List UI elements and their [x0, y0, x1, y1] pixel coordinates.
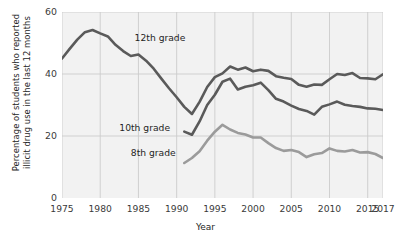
series-line-8th-grade — [184, 125, 383, 163]
y-axis-title-line-2: illicit drug use in the last 12 months — [22, 0, 33, 191]
x-tick-label: 1985 — [118, 203, 158, 214]
series-label-8th-grade: 8th grade — [131, 147, 176, 158]
y-axis-title-line-1: Percentage of students who reported — [11, 0, 22, 191]
x-axis-title: Year — [0, 222, 411, 232]
x-tick-label: 1975 — [42, 203, 82, 214]
series-label-12th-grade: 12th grade — [135, 32, 186, 43]
x-tick-label: 2017 — [363, 203, 403, 214]
x-tick-label: 2005 — [271, 203, 311, 214]
series-label-10th-grade: 10th grade — [119, 122, 170, 133]
x-tick-label: 1995 — [195, 203, 235, 214]
plot-area — [62, 12, 383, 198]
y-tick-label: 20 — [31, 130, 57, 141]
x-tick-label: 2000 — [233, 203, 273, 214]
series-line-10th-grade — [184, 79, 383, 135]
y-tick-label: 40 — [31, 68, 57, 79]
x-tick-label: 1990 — [157, 203, 197, 214]
x-tick-label: 2010 — [310, 203, 350, 214]
y-tick-label: 0 — [31, 192, 57, 203]
chart-figure: Percentage of students who reported illi… — [0, 0, 411, 241]
y-tick-label: 60 — [31, 6, 57, 17]
x-tick-label: 1980 — [80, 203, 120, 214]
chart-canvas — [62, 12, 383, 198]
y-axis-title: Percentage of students who reported illi… — [11, 0, 32, 191]
